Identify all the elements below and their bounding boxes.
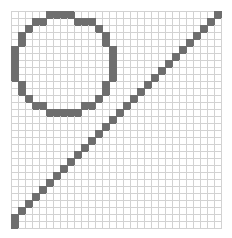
grid-surface[interactable] <box>11 11 222 229</box>
grid-cell-empty[interactable] <box>214 221 222 229</box>
pixel-grid-canvas <box>0 0 232 238</box>
